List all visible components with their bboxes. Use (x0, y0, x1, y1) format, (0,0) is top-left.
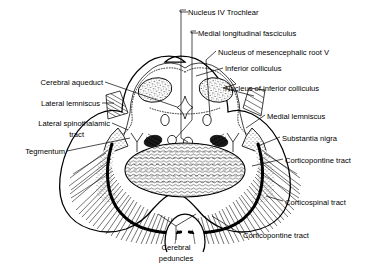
label-text: Corticopontine tract (243, 231, 310, 240)
label-corticospinal-tract: Corticospinal tract (285, 198, 347, 207)
label-nucleus-mesencephalic-root-v: Nucleus of mesencephalic root V (218, 48, 330, 57)
label-text-line2: tract (69, 130, 85, 139)
label-text: Lateral lemniscus (41, 99, 100, 108)
label-text: Corticopontine tract (285, 156, 352, 165)
label-medial-lemniscus: Medial lemniscus (267, 112, 325, 121)
label-inferior-colliculus: Inferior colliculus (225, 64, 282, 73)
label-text: Corticospinal tract (285, 198, 347, 207)
label-text: Cerebral aqueduct (41, 78, 104, 87)
nucleus-mesencephalic-root-v-left (161, 114, 169, 125)
label-text: Nucleus of mesencephalic root V (218, 48, 330, 57)
label-nucleus-iv-trochlear: Nucleus IV Trochlear (188, 8, 259, 17)
label-text: Inferior colliculus (225, 64, 282, 73)
label-text: Nucleus of inferior colliculus (225, 84, 319, 93)
label-substantia-nigra: Substantia nigra (282, 134, 338, 143)
label-text: Lateral spinothalamic (38, 119, 110, 128)
label-text-line2: peduncles (159, 254, 194, 263)
tegmentum-central (125, 143, 245, 197)
label-text: Medial longitudinal fasciculus (198, 29, 297, 38)
label-cerebral-peduncles: Cerebral peduncles (159, 243, 194, 263)
label-corticopontine-tract-lower: Corticopontine tract (243, 231, 310, 240)
label-medial-longitudinal-fasciculus: Medial longitudinal fasciculus (198, 29, 297, 38)
label-text: Substantia nigra (282, 134, 338, 143)
label-lateral-lemniscus: Lateral lemniscus (41, 99, 100, 108)
label-corticopontine-tract-upper: Corticopontine tract (285, 156, 352, 165)
nucleus-mesencephalic-root-v-right (203, 114, 211, 125)
label-text: Nucleus IV Trochlear (188, 8, 259, 17)
label-text: Medial lemniscus (267, 112, 325, 121)
label-cerebral-aqueduct: Cerebral aqueduct (41, 78, 104, 87)
midbrain-cross-section-figure: Nucleus IV Trochlear Medial longitudinal… (0, 0, 370, 266)
label-text: Tegmentum (25, 147, 65, 156)
label-text: Cerebral (161, 243, 190, 252)
label-nucleus-of-inferior-colliculus: Nucleus of inferior colliculus (225, 84, 319, 93)
label-tegmentum: Tegmentum (25, 147, 65, 156)
